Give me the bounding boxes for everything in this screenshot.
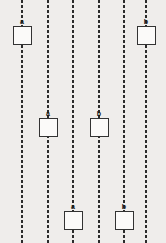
node-label: b (129, 18, 163, 26)
node-square[interactable] (13, 26, 32, 45)
node-box-group[interactable]: b (107, 203, 141, 230)
node-box-group[interactable]: a (5, 18, 39, 45)
node-label: b (107, 203, 141, 211)
diagram-canvas: a a a b b b (0, 0, 166, 243)
node-square[interactable] (64, 211, 83, 230)
node-box-group[interactable]: a (56, 203, 90, 230)
node-square[interactable] (137, 26, 156, 45)
node-square[interactable] (90, 118, 109, 137)
node-label: a (5, 18, 39, 26)
node-label: a (56, 203, 90, 211)
node-label: b (82, 110, 116, 118)
node-label: a (31, 110, 65, 118)
node-square[interactable] (39, 118, 58, 137)
node-box-group[interactable]: b (129, 18, 163, 45)
node-box-group[interactable]: a (31, 110, 65, 137)
node-square[interactable] (115, 211, 134, 230)
node-box-group[interactable]: b (82, 110, 116, 137)
